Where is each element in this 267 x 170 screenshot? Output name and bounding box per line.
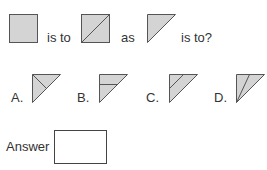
option-d-triangle-icon (236, 74, 266, 104)
option-a-label: A. (11, 90, 23, 105)
option-d-label: D. (214, 90, 227, 105)
is-to-text: is to (47, 30, 71, 45)
option-a-triangle-icon (32, 74, 62, 104)
option-c-triangle-icon (169, 74, 199, 104)
gray-square-figure (9, 14, 38, 43)
option-b-triangle-icon (99, 74, 129, 104)
answer-input-box[interactable] (54, 130, 107, 164)
option-b-label: B. (77, 90, 89, 105)
as-text: as (121, 30, 135, 45)
option-c-label: C. (146, 90, 159, 105)
is-to-question-text: is to? (181, 30, 212, 45)
square-with-diagonal-figure (81, 14, 111, 44)
answer-label: Answer (6, 139, 49, 154)
right-triangle-figure (147, 14, 177, 44)
